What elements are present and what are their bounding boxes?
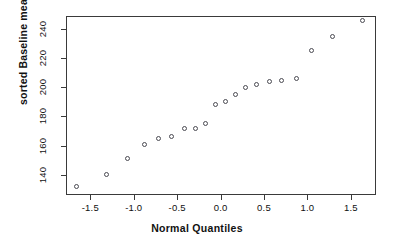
x-tick-mark xyxy=(307,195,308,200)
x-tick-label: -1.5 xyxy=(70,202,110,213)
y-tick-label: 160 xyxy=(37,133,49,159)
y-tick-label: 180 xyxy=(37,103,49,129)
y-tick-mark xyxy=(61,58,66,59)
x-tick-label: 1.0 xyxy=(287,202,327,213)
x-tick-mark xyxy=(264,195,265,200)
plot-panel-frame xyxy=(66,16,376,195)
y-tick-label: 240 xyxy=(37,16,49,42)
y-tick-mark xyxy=(61,116,66,117)
x-tick-label: 0.5 xyxy=(244,202,284,213)
y-tick-mark xyxy=(61,87,66,88)
y-tick-mark xyxy=(61,146,66,147)
x-tick-mark xyxy=(134,195,135,200)
x-tick-mark xyxy=(177,195,178,200)
y-tick-label: 200 xyxy=(37,74,49,100)
x-tick-mark xyxy=(221,195,222,200)
y-tick-label: 140 xyxy=(37,162,49,188)
x-axis-title: Normal Quantiles xyxy=(0,222,394,234)
qq-plot-figure: -1.5-1.0-0.50.00.51.01.5 140160180200220… xyxy=(0,0,394,246)
x-tick-label: -0.5 xyxy=(157,202,197,213)
y-axis-title: sorted Baseline measurements xyxy=(17,0,29,105)
x-tick-label: -1.0 xyxy=(114,202,154,213)
x-tick-mark xyxy=(351,195,352,200)
y-tick-label: 220 xyxy=(37,45,49,71)
y-tick-mark xyxy=(61,175,66,176)
x-tick-mark xyxy=(90,195,91,200)
x-tick-label: 0.0 xyxy=(201,202,241,213)
x-tick-label: 1.5 xyxy=(331,202,371,213)
y-tick-mark xyxy=(61,29,66,30)
